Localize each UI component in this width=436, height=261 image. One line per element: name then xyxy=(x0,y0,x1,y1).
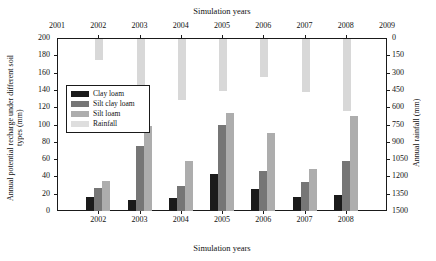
bottom-tick-label: 2005 xyxy=(202,216,242,224)
left-tick-label: 180 xyxy=(24,51,50,59)
legend-item-silt-clay-loam: Silt clay loam xyxy=(71,99,146,109)
top-tick-mark xyxy=(140,35,141,38)
chart-container: Simulation years Annual potential rechar… xyxy=(0,0,436,261)
bottom-tick-label: 2003 xyxy=(120,216,160,224)
bar-clay-loam-2006 xyxy=(251,189,259,211)
right-tick-mark xyxy=(387,125,390,126)
bar-silt-loam-2002 xyxy=(102,181,110,211)
bar-silt-clay-loam-2006 xyxy=(259,171,267,211)
right-tick-mark xyxy=(387,73,390,74)
bottom-axis-title: Simulation years xyxy=(57,243,387,253)
bottom-tick-label: 2004 xyxy=(161,216,201,224)
top-tick-label: 2001 xyxy=(37,22,77,30)
left-tick-label: 160 xyxy=(24,69,50,77)
legend-label-rainfall: Rainfall xyxy=(93,120,117,128)
bar-rainfall-2005 xyxy=(219,39,227,91)
bottom-tick-label: 2007 xyxy=(285,216,325,224)
left-tick-label: 120 xyxy=(24,103,50,111)
legend-item-clay-loam: Clay loam xyxy=(71,89,146,99)
right-tick-label: 1200 xyxy=(392,172,420,180)
bottom-tick-mark xyxy=(140,211,141,214)
top-tick-mark xyxy=(98,35,99,38)
bar-silt-clay-loam-2008 xyxy=(342,161,350,211)
bar-silt-clay-loam-2007 xyxy=(301,182,309,211)
legend-swatch-icon-silt-loam xyxy=(71,111,89,117)
bar-rainfall-2002 xyxy=(95,39,103,60)
right-tick-label: 1500 xyxy=(392,207,420,215)
top-axis-title: Simulation years xyxy=(57,6,387,16)
left-tick-mark xyxy=(54,107,57,108)
bar-clay-loam-2003 xyxy=(128,200,136,211)
left-tick-mark xyxy=(54,55,57,56)
bottom-tick-mark xyxy=(305,211,306,214)
bar-silt-clay-loam-2004 xyxy=(177,186,185,211)
left-tick-mark xyxy=(54,73,57,74)
left-tick-label: 140 xyxy=(24,86,50,94)
right-tick-label: 750 xyxy=(392,121,420,129)
top-tick-mark xyxy=(305,35,306,38)
bottom-tick-mark xyxy=(181,211,182,214)
right-tick-label: 1050 xyxy=(392,155,420,163)
top-tick-label: 2005 xyxy=(202,22,242,30)
left-tick-label: 80 xyxy=(24,138,50,146)
right-tick-label: 450 xyxy=(392,86,420,94)
bar-rainfall-2004 xyxy=(178,39,186,100)
bar-silt-loam-2007 xyxy=(309,169,317,211)
legend-swatch-icon-clay-loam xyxy=(71,91,89,97)
left-tick-label: 40 xyxy=(24,172,50,180)
bar-silt-loam-2005 xyxy=(226,113,234,211)
left-tick-label: 200 xyxy=(24,34,50,42)
bar-silt-clay-loam-2005 xyxy=(218,125,226,212)
top-tick-mark xyxy=(181,35,182,38)
top-tick-mark xyxy=(346,35,347,38)
bar-silt-loam-2004 xyxy=(185,161,193,211)
top-tick-label: 2004 xyxy=(161,22,201,30)
bar-rainfall-2007 xyxy=(302,39,310,92)
right-tick-mark xyxy=(387,55,390,56)
left-tick-label: 60 xyxy=(24,155,50,163)
bar-rainfall-2006 xyxy=(260,39,268,77)
bar-clay-loam-2005 xyxy=(210,174,218,211)
top-tick-mark xyxy=(222,35,223,38)
bar-clay-loam-2004 xyxy=(169,198,177,211)
left-tick-mark xyxy=(54,159,57,160)
legend-label-silt-clay-loam: Silt clay loam xyxy=(93,100,135,108)
top-tick-label: 2009 xyxy=(367,22,407,30)
bar-clay-loam-2002 xyxy=(86,197,94,211)
bar-silt-loam-2008 xyxy=(350,116,358,211)
left-tick-mark xyxy=(54,142,57,143)
legend-swatch-icon-silt-clay-loam xyxy=(71,101,89,107)
left-tick-label: 100 xyxy=(24,121,50,129)
top-tick-label: 2006 xyxy=(243,22,283,30)
bottom-tick-mark xyxy=(222,211,223,214)
right-tick-mark xyxy=(387,90,390,91)
chart-legend: Clay loam Silt clay loam Silt loam Rainf… xyxy=(66,85,150,133)
left-axis-title: Annual potential recharge under differen… xyxy=(6,48,26,208)
top-tick-label: 2008 xyxy=(326,22,366,30)
bar-rainfall-2008 xyxy=(343,39,351,111)
bar-silt-loam-2006 xyxy=(267,133,275,211)
right-tick-label: 150 xyxy=(392,51,420,59)
right-tick-label: 1350 xyxy=(392,190,420,198)
bottom-tick-mark xyxy=(346,211,347,214)
right-tick-label: 0 xyxy=(392,34,420,42)
top-tick-mark xyxy=(263,35,264,38)
bar-clay-loam-2007 xyxy=(293,197,301,211)
right-tick-label: 600 xyxy=(392,103,420,111)
left-tick-label: 0 xyxy=(24,207,50,215)
right-tick-mark xyxy=(387,194,390,195)
legend-label-silt-loam: Silt loam xyxy=(93,110,120,118)
bar-silt-clay-loam-2003 xyxy=(136,146,144,211)
right-tick-mark xyxy=(387,142,390,143)
left-tick-mark xyxy=(54,176,57,177)
bar-silt-loam-2003 xyxy=(144,126,152,211)
right-tick-mark xyxy=(387,176,390,177)
right-tick-mark xyxy=(387,159,390,160)
right-tick-label: 900 xyxy=(392,138,420,146)
right-tick-label: 300 xyxy=(392,69,420,77)
left-tick-mark xyxy=(54,194,57,195)
left-tick-mark xyxy=(54,90,57,91)
legend-item-silt-loam: Silt loam xyxy=(71,109,146,119)
bar-silt-clay-loam-2002 xyxy=(94,188,102,211)
legend-label-clay-loam: Clay loam xyxy=(93,90,124,98)
